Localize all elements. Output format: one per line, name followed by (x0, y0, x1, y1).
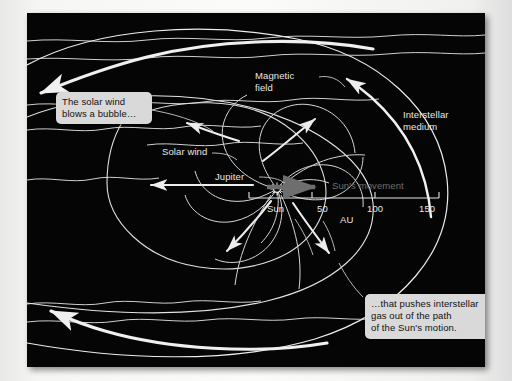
label-magnetic-field: Magnetic field (255, 70, 294, 93)
outer-flow-arrow-top (41, 41, 373, 93)
callout-interstellar-gas-push: …that pushes interstellar gas out of the… (365, 294, 485, 339)
label-interstellar-medium: Interstellar medium (403, 109, 449, 132)
scale-tick-label-100: 100 (367, 203, 383, 214)
diagram-canvas: The solar wind blows a bubble… …that pus… (27, 13, 485, 367)
label-suns-movement: Sun's movement (332, 180, 404, 191)
callout-solar-wind-bubble: The solar wind blows a bubble… (56, 92, 152, 124)
label-jupiter: Jupiter (215, 171, 244, 183)
scale-tick-label-50: 50 (317, 203, 328, 214)
label-solar-wind: Solar wind (162, 146, 207, 158)
figure-page: The solar wind blows a bubble… …that pus… (0, 0, 512, 381)
scale-unit-label: AU (340, 214, 353, 225)
scale-tick-label-sun: Sun (267, 203, 284, 214)
outer-flow-arrow-bottom (51, 311, 327, 349)
scale-tick-label-150: 150 (419, 203, 435, 214)
